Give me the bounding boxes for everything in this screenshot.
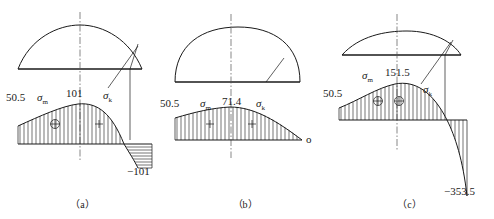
marker-circle-plus-a [51, 120, 60, 129]
caption-b: （b） [160, 196, 330, 211]
label-sigma-m-b: σm [200, 98, 211, 112]
hatch-negative-a [120, 147, 156, 165]
label-sigma-m-c: σm [362, 70, 373, 84]
stress-curve-b [175, 107, 302, 140]
label-crown-value-b: 71.4 [222, 96, 241, 107]
label-bottom-value-a: −101 [127, 166, 150, 177]
sigma-subscript-right-b: k [261, 104, 265, 112]
sigma-subscript-left-a: m [42, 98, 47, 106]
label-sigma-m-a: σm [37, 92, 48, 106]
marker-circle-plus-right-c [395, 97, 404, 106]
label-sigma-k-b: σk [256, 98, 265, 112]
sigma-subscript-left-b: m [205, 104, 210, 112]
label-crown-value-c: 151.5 [385, 67, 410, 78]
label-sigma-k-a: σk [103, 90, 112, 104]
label-left-value-a: 50.5 [6, 92, 25, 103]
arch-radial-line-b [266, 58, 284, 82]
leader-line-a [108, 46, 138, 88]
arch-outline-c [342, 31, 461, 55]
panel-c-graphics [325, 0, 494, 210]
caption-a: （a） [0, 196, 165, 211]
sigma-subscript-right-c: k [428, 90, 432, 98]
label-sigma-k-c: σk [423, 84, 432, 98]
panel-c: 50.5 151.5 σm σk −353.5 （c） [325, 0, 494, 219]
label-crown-value-a: 101 [66, 88, 83, 99]
label-left-value-c: 50.5 [323, 88, 342, 99]
panel-b: 50.5 71.4 σm σk o （b） [160, 0, 330, 219]
arch-outline-b [175, 27, 300, 82]
leader-line-c [421, 42, 451, 84]
marker-circle-plus-left-c [374, 97, 383, 106]
sigma-subscript-left-c: m [367, 76, 372, 84]
panel-a: 50.5 101 σm σk −101 （a） [0, 0, 165, 219]
panel-b-graphics [160, 0, 330, 200]
stress-curve-c [339, 83, 467, 196]
label-end-value-b: o [306, 134, 312, 145]
caption-c: （c） [325, 196, 494, 211]
label-left-value-b: 50.5 [160, 98, 179, 109]
sigma-subscript-right-a: k [108, 96, 112, 104]
